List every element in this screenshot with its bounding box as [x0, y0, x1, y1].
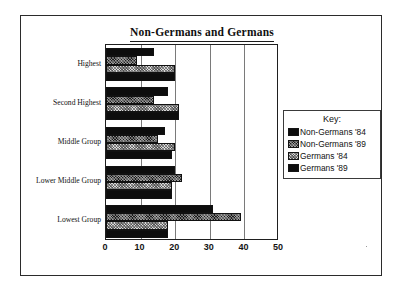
- bar: [106, 151, 172, 159]
- x-axis-tick-label: 40: [238, 242, 248, 252]
- legend-swatch-icon: [288, 164, 299, 172]
- legend: Key: Non-Germans '84Non-Germans '89Germa…: [283, 110, 381, 179]
- bar-group: [106, 166, 277, 199]
- bar: [106, 221, 168, 229]
- legend-swatch-icon: [288, 128, 299, 136]
- bar: [106, 143, 175, 151]
- x-axis-tick-label: 10: [135, 242, 145, 252]
- legend-item[interactable]: Germans '89: [288, 162, 376, 173]
- bar: [106, 65, 175, 73]
- bar: [106, 213, 241, 221]
- chart-outer-frame: Non-Germans and Germans HighestSecond Hi…: [20, 15, 382, 276]
- bar: [106, 104, 179, 112]
- legend-item[interactable]: Non-Germans '84: [288, 126, 376, 137]
- plot-area: [105, 44, 278, 240]
- legend-item[interactable]: Non-Germans '89: [288, 138, 376, 149]
- legend-item[interactable]: Germans '84: [288, 150, 376, 161]
- x-axis-tick-label: 20: [169, 242, 179, 252]
- bar-group: [106, 48, 277, 81]
- bar: [106, 190, 172, 198]
- bar-group: [106, 205, 277, 238]
- legend-swatch-icon: [288, 140, 299, 148]
- bar: [106, 48, 154, 56]
- legend-swatch-icon: [288, 152, 299, 160]
- bar-group: [106, 127, 277, 160]
- y-axis-label: Second Highest: [53, 98, 101, 107]
- bar: [106, 174, 182, 182]
- x-axis-tick-label: 30: [204, 242, 214, 252]
- bar: [106, 135, 158, 143]
- bar: [106, 205, 213, 213]
- x-axis-tick-label: 50: [273, 242, 283, 252]
- legend-item-label: Non-Germans '84: [300, 127, 366, 137]
- bar: [106, 87, 168, 95]
- bar-group: [106, 87, 277, 120]
- chart-title-container: Non-Germans and Germans: [114, 22, 290, 42]
- legend-entries: Non-Germans '84Non-Germans '89Germans '8…: [288, 126, 376, 173]
- y-axis-label: Middle Group: [58, 137, 101, 146]
- y-axis-label: Highest: [77, 59, 101, 68]
- scan-speck: [366, 246, 367, 247]
- bar: [106, 127, 165, 135]
- bar: [106, 230, 168, 238]
- bar: [106, 166, 175, 174]
- bar: [106, 112, 179, 120]
- page-title: Non-Germans and Germans: [130, 26, 274, 42]
- legend-item-label: Non-Germans '89: [300, 139, 366, 149]
- bar: [106, 182, 172, 190]
- x-axis-tick-labels: 01020304050: [105, 242, 278, 258]
- legend-item-label: Germans '84: [300, 151, 348, 161]
- y-axis-label: Lower Middle Group: [36, 176, 101, 185]
- x-axis-tick-label: 0: [102, 242, 107, 252]
- bar: [106, 96, 154, 104]
- bar: [106, 56, 137, 64]
- y-axis-label: Lowest Group: [57, 215, 101, 224]
- legend-item-label: Germans '89: [300, 163, 348, 173]
- legend-title: Key:: [288, 114, 376, 124]
- bar: [106, 73, 175, 81]
- y-axis-category-labels: HighestSecond HighestMiddle GroupLower M…: [21, 44, 101, 240]
